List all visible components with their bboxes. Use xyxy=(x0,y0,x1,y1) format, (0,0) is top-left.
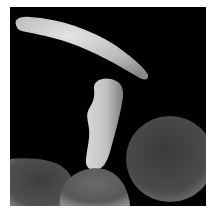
normal-cell-right xyxy=(126,116,206,202)
sickle-cell xyxy=(16,17,149,80)
normal-cell-bottom-center xyxy=(60,168,130,206)
micrograph-frame xyxy=(10,7,206,206)
elongated-cell xyxy=(86,78,123,170)
micrograph xyxy=(10,7,206,206)
